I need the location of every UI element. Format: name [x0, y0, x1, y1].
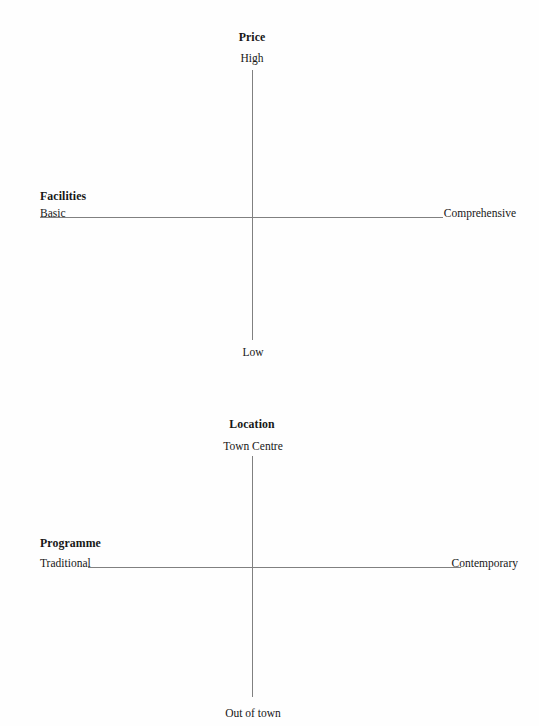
positioning-map-location-programme: Location Town Centre Programme Tradition… [0, 380, 539, 726]
page-canvas: Price High Facilities Basic Comprehensiv… [0, 0, 539, 726]
map-one-vertical-axis-title: Price [239, 30, 266, 44]
map-one-horizontal-axis-title: Facilities [40, 189, 86, 203]
map-one-vertical-axis-line [252, 70, 253, 340]
map-one-bottom-label: Low [242, 345, 263, 359]
map-one-right-label: Comprehensive [444, 206, 516, 220]
map-two-left-label: Traditional [40, 556, 91, 570]
map-two-top-label: Town Centre [223, 439, 283, 453]
positioning-map-price-facilities: Price High Facilities Basic Comprehensiv… [0, 0, 539, 380]
map-one-horizontal-axis-line [40, 217, 443, 218]
map-two-vertical-axis-title: Location [229, 417, 274, 431]
map-two-horizontal-axis-line [88, 567, 461, 568]
map-two-horizontal-axis-title: Programme [40, 536, 101, 550]
map-two-vertical-axis-line [252, 456, 253, 697]
map-one-top-label: High [241, 51, 264, 65]
map-two-right-label: Contemporary [452, 556, 518, 570]
map-two-bottom-label: Out of town [225, 706, 281, 720]
